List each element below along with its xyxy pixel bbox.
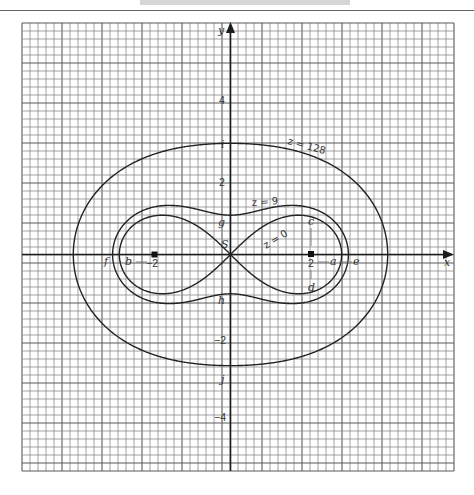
point-label-a: a xyxy=(330,255,337,268)
page-header xyxy=(0,0,474,11)
contour-figure: y x 4 2 −2 −4 −2 2 S a b c d e f g h i j… xyxy=(0,0,474,495)
point-label-e: e xyxy=(353,255,360,268)
point-label-c: c xyxy=(308,215,314,228)
point-label-i: i xyxy=(221,138,225,151)
point-label-g: g xyxy=(218,216,225,229)
point-label-h: h xyxy=(218,294,225,307)
point-label-d: d xyxy=(308,281,315,294)
y-tick-label: −2 xyxy=(214,334,226,346)
x-tick-label: −2 xyxy=(146,257,158,269)
y-axis-label: y xyxy=(217,24,225,37)
y-tick-label: 4 xyxy=(219,94,225,106)
y-axis-arrow-icon xyxy=(226,22,235,33)
curve-label-z9: z = 9 xyxy=(251,195,278,208)
point-label-b: b xyxy=(125,255,132,268)
x-axis-label: x xyxy=(444,256,451,269)
y-tick-label: −4 xyxy=(214,411,226,423)
point-label-f: f xyxy=(103,255,110,268)
y-tick-label: 2 xyxy=(219,176,225,188)
header-text-strip xyxy=(140,0,350,5)
point-label-s: S xyxy=(221,238,229,251)
curve-label-z128: z = 128 xyxy=(286,135,327,156)
x-tick-label: 2 xyxy=(308,257,314,269)
